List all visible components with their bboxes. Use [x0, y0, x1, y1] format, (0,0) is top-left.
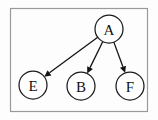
- edge-line: [90, 42, 103, 68]
- node-f[interactable]: F: [116, 72, 144, 100]
- edges-layer: [44, 37, 126, 76]
- node-label: B: [76, 79, 86, 95]
- edge-line: [114, 42, 123, 67]
- node-e[interactable]: E: [19, 71, 47, 99]
- graph-canvas: AEBF: [0, 0, 158, 120]
- edge-a-to-b: [87, 42, 103, 74]
- arrowhead-icon: [44, 70, 51, 76]
- diagram-root: AEBF: [0, 0, 158, 120]
- edge-a-to-f: [114, 42, 126, 73]
- node-label: A: [104, 22, 115, 38]
- node-a[interactable]: A: [95, 15, 123, 43]
- node-label: E: [28, 78, 37, 94]
- node-label: F: [126, 79, 134, 95]
- nodes-layer: AEBF: [19, 15, 144, 100]
- node-b[interactable]: B: [67, 72, 95, 100]
